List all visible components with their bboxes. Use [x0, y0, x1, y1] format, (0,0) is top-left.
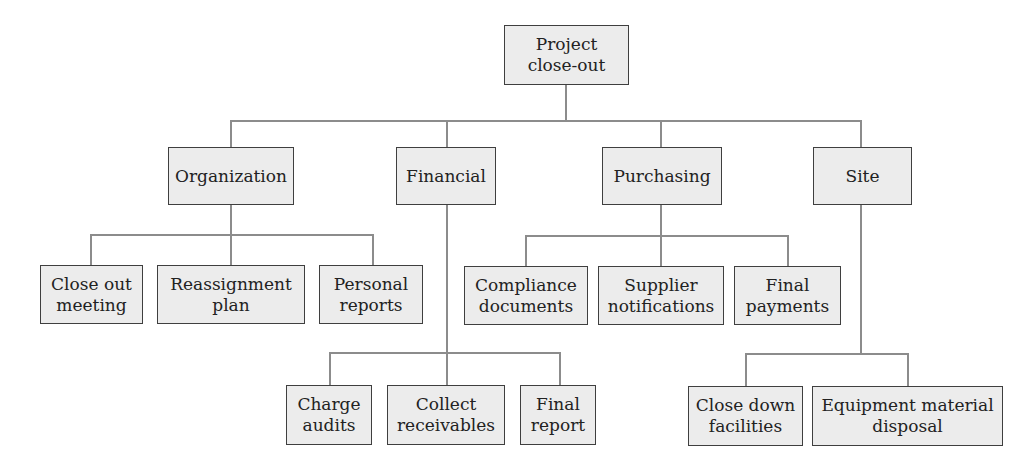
node-close-down-facilities: Close down facilities [688, 386, 803, 446]
connector-reassignment-plan-drop [230, 234, 232, 265]
node-organization: Organization [168, 147, 294, 205]
connector-charge-audits-drop [329, 352, 331, 385]
connector-final-report-drop [559, 352, 561, 385]
node-collect-receivables: Collect receivables [387, 385, 505, 445]
node-label: Supplier notifications [608, 275, 715, 317]
diagram-canvas: Project close-out Organization Financial… [0, 0, 1036, 475]
node-label: Organization [175, 166, 287, 187]
node-label: Site [846, 166, 880, 187]
node-financial: Financial [396, 147, 496, 205]
connector-purchasing-drop [660, 120, 662, 147]
node-final-report: Final report [520, 385, 596, 445]
connector-purchasing-stem [660, 205, 662, 236]
node-charge-audits: Charge audits [286, 385, 372, 445]
connector-compliance-documents-drop [525, 235, 527, 266]
connector-final-payments-drop [787, 235, 789, 266]
node-label: Financial [406, 166, 486, 187]
connector-organization-bus [90, 234, 374, 236]
node-label: Collect receivables [397, 394, 495, 436]
node-label: Final payments [746, 275, 829, 317]
connector-financial-drop [446, 120, 448, 147]
node-site: Site [813, 147, 912, 205]
node-project-close-out: Project close-out [504, 25, 629, 85]
node-reassignment-plan: Reassignment plan [157, 265, 305, 324]
node-label: Charge audits [297, 394, 360, 436]
connector-close-down-facilities-drop [745, 353, 747, 386]
node-label: Personal reports [334, 274, 408, 316]
node-final-payments: Final payments [734, 266, 841, 325]
connector-financial-stem [446, 205, 448, 354]
connector-purchasing-bus [525, 235, 789, 237]
node-label: Reassignment plan [170, 274, 292, 316]
node-supplier-notifications: Supplier notifications [598, 266, 724, 325]
connector-site-stem [860, 205, 862, 355]
connector-personal-reports-drop [372, 234, 374, 265]
connector-organization-drop [230, 120, 232, 147]
connector-close-out-meeting-drop [90, 234, 92, 265]
connector-organization-stem [230, 205, 232, 235]
connector-level1-bus [230, 120, 862, 122]
node-label: Close down facilities [696, 395, 796, 437]
node-close-out-meeting: Close out meeting [40, 265, 143, 324]
node-label: Close out meeting [51, 274, 132, 316]
node-equipment-material-disposal: Equipment material disposal [812, 386, 1003, 446]
connector-site-bus [745, 353, 909, 355]
connector-financial-bus [329, 352, 561, 354]
node-purchasing: Purchasing [602, 147, 722, 205]
node-label: Compliance documents [475, 275, 577, 317]
node-label: Project close-out [528, 34, 606, 76]
node-personal-reports: Personal reports [319, 265, 423, 324]
connector-site-drop [860, 120, 862, 147]
node-label: Purchasing [613, 166, 710, 187]
connector-supplier-notifications-drop [660, 235, 662, 266]
connector-equipment-disposal-drop [907, 353, 909, 386]
node-label: Final report [531, 394, 585, 436]
node-compliance-documents: Compliance documents [464, 266, 588, 325]
node-label: Equipment material disposal [821, 395, 993, 437]
connector-root-stem [565, 85, 567, 122]
connector-collect-receivables-drop [446, 352, 448, 385]
